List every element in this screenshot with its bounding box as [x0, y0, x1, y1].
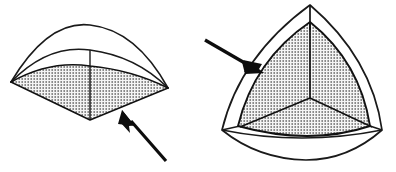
figure-root: Spherical triangle solid — two orientati…: [0, 0, 396, 172]
technical-diagram: [0, 0, 396, 172]
